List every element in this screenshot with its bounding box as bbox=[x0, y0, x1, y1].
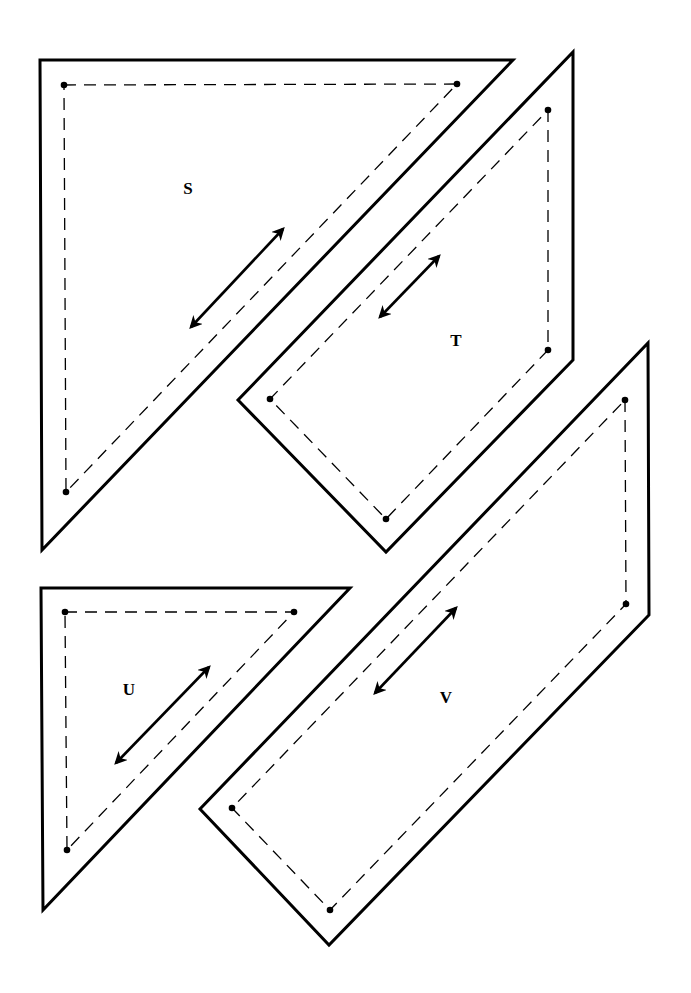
piece-u: U bbox=[41, 588, 350, 910]
seam-corner-dot bbox=[61, 82, 68, 89]
seam-corner-dot bbox=[291, 609, 298, 616]
piece-u-seam-line bbox=[65, 612, 294, 850]
piece-t: T bbox=[238, 52, 573, 552]
piece-v-label: V bbox=[440, 688, 453, 707]
seam-corner-dot bbox=[267, 396, 274, 403]
seam-corner-dot bbox=[327, 907, 334, 914]
piece-s-outline bbox=[40, 60, 513, 550]
seam-corner-dot bbox=[623, 601, 630, 608]
pattern-diagram: S T U V bbox=[0, 0, 691, 993]
seam-corner-dot bbox=[454, 81, 461, 88]
piece-t-grain-arrow-icon bbox=[380, 256, 439, 317]
seam-corner-dot bbox=[62, 609, 69, 616]
piece-t-outline bbox=[238, 52, 573, 552]
seam-corner-dot bbox=[622, 397, 629, 404]
seam-corner-dot bbox=[64, 847, 71, 854]
seam-corner-dot bbox=[545, 347, 552, 354]
piece-v-outline bbox=[200, 343, 649, 945]
seam-corner-dot bbox=[383, 516, 390, 523]
piece-u-corner-dots bbox=[62, 609, 298, 854]
piece-v-seam-line bbox=[232, 400, 626, 910]
piece-s: S bbox=[40, 60, 513, 550]
piece-u-label: U bbox=[123, 680, 135, 699]
piece-t-seam-line bbox=[270, 110, 548, 519]
seam-corner-dot bbox=[63, 489, 70, 496]
piece-t-label: T bbox=[450, 331, 462, 350]
piece-s-corner-dots bbox=[61, 81, 461, 496]
seam-corner-dot bbox=[545, 107, 552, 114]
seam-corner-dot bbox=[229, 805, 236, 812]
piece-v-grain-arrow-icon bbox=[375, 608, 456, 693]
piece-u-outline bbox=[41, 588, 350, 910]
piece-s-seam-line bbox=[64, 84, 457, 492]
piece-v-corner-dots bbox=[229, 397, 630, 914]
piece-s-label: S bbox=[183, 179, 192, 198]
piece-v: V bbox=[200, 343, 649, 945]
